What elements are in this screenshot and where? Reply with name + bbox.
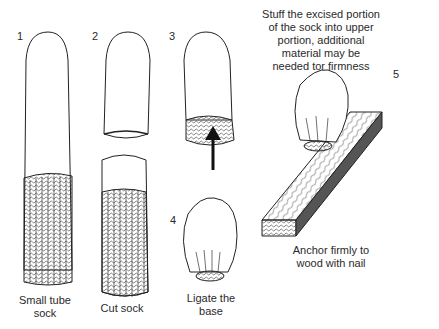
step4-label: Ligate the base (176, 292, 246, 318)
step-number-2: 2 (92, 30, 98, 42)
step-number-3: 3 (169, 30, 175, 42)
stuffing-instruction: Stuff the excised portion of the sock in… (236, 8, 406, 73)
step5-wood-board-drawing (262, 70, 382, 236)
step5-label: Anchor firmly to wood with nail (276, 244, 386, 270)
step1-tube-sock-drawing (24, 32, 72, 285)
step3-stuffed-sock-drawing (184, 32, 234, 145)
step-number-1: 1 (17, 30, 23, 42)
step4-ligated-sock-drawing (183, 198, 237, 281)
step1-label: Small tube sock (10, 294, 80, 320)
step2-cut-sock-drawing (102, 32, 150, 297)
step2-label: Cut sock (92, 302, 152, 315)
step-number-4: 4 (170, 214, 176, 226)
